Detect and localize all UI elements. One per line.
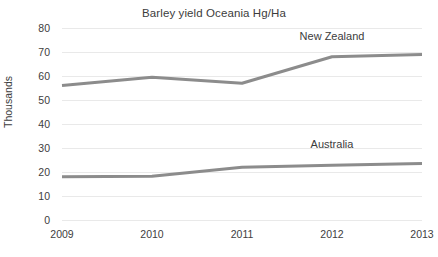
plot-area: 01020304050607080 20092010201120122013 N…	[62, 28, 422, 220]
chart-title: Barley yield Oceania Hg/Ha	[0, 7, 428, 19]
x-axis-tick-label: 2012	[302, 228, 362, 240]
y-axis-tick-label: 70	[10, 46, 50, 58]
x-axis-tick-label: 2011	[212, 228, 272, 240]
x-axis-tick-label: 2009	[32, 228, 92, 240]
y-axis-tick-label: 20	[10, 166, 50, 178]
series-line	[62, 164, 422, 177]
series-line	[62, 54, 422, 85]
y-axis-tick-label: 30	[10, 142, 50, 154]
y-axis-tick-label: 60	[10, 70, 50, 82]
series-label: Australia	[311, 138, 354, 150]
gridline	[62, 220, 422, 221]
y-axis-tick-label: 50	[10, 94, 50, 106]
series-lines	[62, 28, 422, 220]
y-axis-tick-label: 10	[10, 190, 50, 202]
y-axis-tick-label: 40	[10, 118, 50, 130]
series-label: New Zealand	[300, 30, 365, 42]
y-axis-tick-label: 0	[10, 214, 50, 226]
y-axis-tick-label: 80	[10, 22, 50, 34]
x-axis-tick-label: 2010	[122, 228, 182, 240]
x-axis-tick-label: 2013	[392, 228, 438, 240]
